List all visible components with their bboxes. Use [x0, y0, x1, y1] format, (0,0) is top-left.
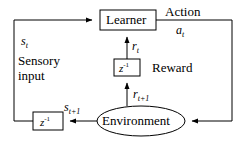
diagram-canvas: Learner Environment z-1 z-1 Action at Re… [0, 0, 248, 142]
learner-label: Learner [106, 13, 146, 26]
reward-next-symbol-subscript: t+1 [138, 94, 150, 103]
environment-label: Environment [102, 114, 170, 127]
delay-state-exponent: -1 [44, 115, 50, 123]
reward-symbol-subscript: t [137, 46, 139, 55]
reward-next-symbol: rt+1 [133, 88, 149, 103]
reward-label: Reward [152, 61, 192, 74]
delay-reward-exponent: -1 [123, 61, 129, 69]
action-symbol-subscript: t [182, 30, 184, 39]
delay-reward-label: z-1 [119, 62, 129, 74]
sensory-input-line1: Sensory [18, 54, 60, 69]
state-next-symbol: st+1 [64, 101, 80, 116]
sensory-input-label: Sensory input [18, 54, 60, 83]
delay-state-label: z-1 [40, 116, 50, 128]
state-next-symbol-subscript: t+1 [69, 107, 81, 116]
action-symbol: at [176, 24, 184, 39]
state-symbol-subscript: t [26, 41, 28, 50]
sensory-input-line2: input [18, 69, 60, 84]
state-symbol: st [21, 35, 28, 50]
reward-symbol: rt [132, 40, 139, 55]
action-label: Action [165, 5, 200, 18]
